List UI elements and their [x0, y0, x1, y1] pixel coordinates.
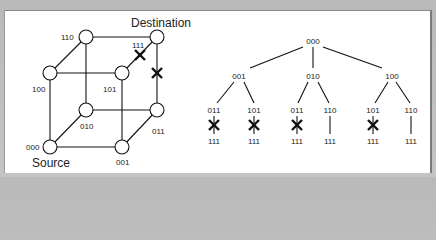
tree-root-label: 000: [306, 37, 320, 46]
tree-leaf-label: 111: [405, 137, 418, 146]
node-000: [43, 140, 57, 154]
node-101: [115, 66, 129, 80]
edge-100-110: [50, 37, 86, 73]
route-tree: 000 001 010 100 011 101 011 110 101 110 …: [208, 37, 418, 146]
tree-leaf-label: 111: [324, 137, 337, 146]
tree-l2-label: 011: [291, 106, 304, 115]
tree-l1-label: 001: [232, 72, 246, 81]
node-label-001: 001: [116, 158, 130, 167]
node-label-011: 011: [152, 127, 165, 136]
tree-l2-label: 101: [366, 106, 380, 115]
node-010: [79, 103, 93, 117]
tree-l1-label: 100: [385, 72, 399, 81]
node-011: [150, 103, 164, 117]
tree-leaf-label: 111: [367, 137, 380, 146]
node-label-111: 111: [132, 41, 145, 50]
node-111: [150, 30, 164, 44]
tree-l2-label: 011: [208, 106, 221, 115]
node-label-101: 101: [103, 85, 117, 94]
tree-leaf-label: 111: [208, 137, 221, 146]
node-label-010: 010: [80, 122, 94, 131]
destination-label: Destination: [131, 16, 191, 30]
node-label-110: 110: [61, 33, 74, 42]
tree-l2-label: 101: [247, 106, 261, 115]
tree-l2-label: 110: [324, 106, 337, 115]
node-100: [43, 66, 57, 80]
tree-l1-label: 010: [306, 72, 320, 81]
hypercube-routing-diagram: 000 001 010 011 100 101 110 111 Source D…: [0, 0, 436, 177]
node-001: [115, 140, 129, 154]
hypercube: 000 001 010 011 100 101 110 111 Source D…: [26, 16, 191, 170]
tree-leaf-label: 111: [291, 137, 304, 146]
node-label-100: 100: [32, 85, 46, 94]
node-110: [79, 30, 93, 44]
failed-edge-cross-icon: [135, 50, 145, 60]
source-label: Source: [32, 156, 70, 170]
node-label-000: 000: [26, 143, 40, 152]
tree-leaf-label: 111: [248, 137, 261, 146]
tree-l2-label: 110: [405, 106, 418, 115]
